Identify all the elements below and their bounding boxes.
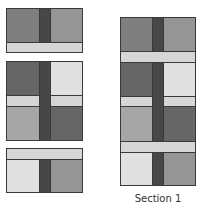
sec-u2-top-right — [163, 62, 196, 97]
unit2-top-right — [50, 61, 83, 96]
unit1-light-bar — [6, 42, 83, 53]
sec-u2-bottom-right — [163, 106, 196, 142]
sec-u2-bottom-left — [120, 106, 153, 142]
sec-center-strip-top — [152, 17, 164, 52]
sec-u3-right-square — [163, 152, 196, 186]
sec-u1-left-square — [120, 17, 153, 52]
unit2-center-strip — [39, 61, 51, 141]
sec-u1-right-square — [163, 17, 196, 52]
sec-center-strip-mid — [152, 62, 164, 142]
unit3-right-square — [50, 159, 83, 193]
unit2-bottom-left — [6, 106, 40, 141]
section-caption: Section 1 — [128, 193, 188, 204]
unit2-top-left — [6, 61, 40, 96]
unit2-bottom-right — [50, 106, 83, 141]
sec-center-strip-bottom — [152, 152, 164, 186]
unit3-left-square — [6, 159, 40, 193]
unit1-left-square — [6, 8, 40, 43]
unit1-right-square — [50, 8, 83, 43]
sec-u3-left-square — [120, 152, 153, 186]
sec-u2-top-left — [120, 62, 153, 97]
